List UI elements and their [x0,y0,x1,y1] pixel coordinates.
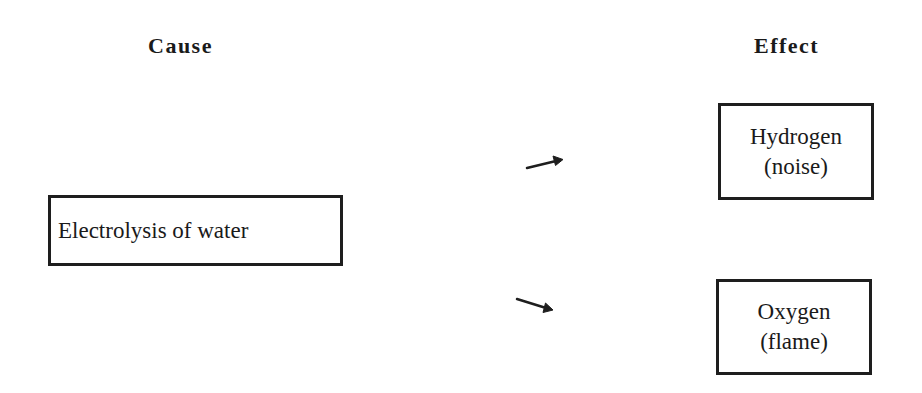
effect-box-oxygen: Oxygen (flame) [716,279,872,375]
arrow-up-right-icon [527,156,563,168]
cause-label: Electrolysis of water [58,216,248,246]
effect-heading: Effect [754,33,819,59]
arrow-down-right-icon [517,299,553,313]
effect-box-hydrogen: Hydrogen (noise) [718,103,874,200]
effect-hydrogen-label: Hydrogen [750,122,842,152]
effect-oxygen-label: Oxygen [758,297,831,327]
effect-hydrogen-note: (noise) [750,152,842,182]
effect-oxygen-note: (flame) [758,327,831,357]
cause-box: Electrolysis of water [48,195,343,266]
cause-heading: Cause [148,33,213,59]
